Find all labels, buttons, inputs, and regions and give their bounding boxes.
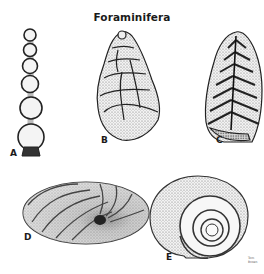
specimen-label-e: E bbox=[166, 252, 172, 262]
specimen-b-drawing bbox=[97, 31, 159, 140]
specimen-label-b: B bbox=[101, 135, 108, 145]
specimen-a-drawing bbox=[18, 29, 44, 156]
specimen-c-drawing bbox=[205, 32, 262, 142]
artist-signature: Tom Brown bbox=[248, 256, 264, 264]
specimen-d-drawing bbox=[23, 182, 149, 244]
foraminifera-illustrations bbox=[0, 0, 264, 274]
specimen-label-a: A bbox=[10, 148, 17, 158]
specimen-label-d: D bbox=[24, 232, 31, 242]
specimen-e-drawing bbox=[150, 176, 248, 258]
specimen-label-c: C bbox=[216, 135, 223, 145]
